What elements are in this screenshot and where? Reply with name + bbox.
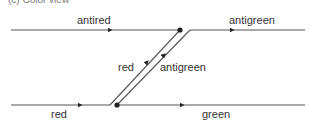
bottom-vertex-dot-icon <box>114 102 119 107</box>
top-vertex-dot-icon <box>177 27 182 32</box>
lines-group <box>11 30 305 105</box>
label-antigreen-top: antigreen <box>229 15 275 26</box>
label-antired: antired <box>77 15 111 26</box>
arrowhead-icon <box>145 62 147 64</box>
label-red-bottom: red <box>51 109 67 120</box>
label-red-mid: red <box>118 62 134 73</box>
label-green-bottom: green <box>202 109 230 120</box>
label-antigreen-mid: antigreen <box>160 62 206 73</box>
